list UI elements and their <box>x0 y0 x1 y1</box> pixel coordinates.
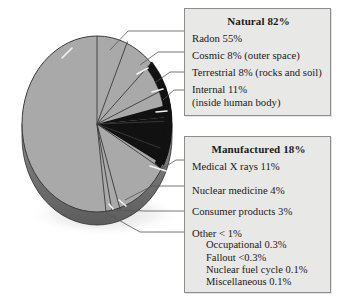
natural-item-terrestrial: Terrestrial 8% (rocks and soil) <box>192 66 325 79</box>
manufactured-box-title: Manufactured 18% <box>192 143 325 155</box>
natural-callout-box: Natural 82% Radon 55% Cosmic 8% (outer s… <box>184 8 331 116</box>
radiation-sources-pie-figure: Natural 82% Radon 55% Cosmic 8% (outer s… <box>0 0 348 304</box>
manufactured-subitem-miscellaneous: Miscellaneous 0.1% <box>192 276 325 288</box>
manufactured-callout-box: Manufactured 18% Medical X rays 11% Nucl… <box>184 136 331 293</box>
natural-box-title: Natural 82% <box>192 15 325 27</box>
natural-item-cosmic: Cosmic 8% (outer space) <box>192 49 325 62</box>
natural-item-internal-detail: (inside human body) <box>192 96 325 108</box>
manufactured-subitem-nuclear-fuel-cycle: Nuclear fuel cycle 0.1% <box>192 264 325 276</box>
natural-item-internal: Internal 11% <box>192 83 325 96</box>
manufactured-item-nuclear-medicine: Nuclear medicine 4% <box>192 184 325 197</box>
manufactured-item-other: Other < 1% <box>192 227 325 240</box>
natural-item-radon: Radon 55% <box>192 32 325 45</box>
manufactured-subitem-fallout: Fallout <0.3% <box>192 252 325 264</box>
manufactured-item-consumer-products: Consumer products 3% <box>192 205 325 218</box>
manufactured-item-medical-x-rays: Medical X rays 11% <box>192 160 325 173</box>
manufactured-subitem-occupational: Occupational 0.3% <box>192 239 325 251</box>
